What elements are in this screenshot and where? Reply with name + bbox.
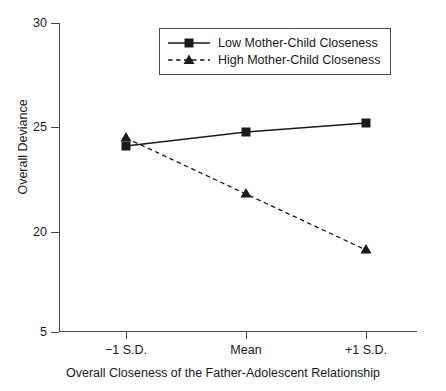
legend-key-solid-square-icon <box>167 36 211 50</box>
x-tick-label-mean: Mean <box>201 343 291 357</box>
y-axis-title: Overall Deviance <box>16 77 30 217</box>
y-tick-label-5: 5 <box>0 326 47 339</box>
y-tick-mark-30 <box>51 23 59 24</box>
x-axis-title: Overall Closeness of the Father-Adolesce… <box>0 366 446 380</box>
x-tick-label-minus1sd: −1 S.D. <box>81 343 171 357</box>
x-tick-mark-plus1sd <box>366 332 367 339</box>
legend: Low Mother-Child Closeness High Mother-C… <box>159 28 391 75</box>
legend-label-high: High Mother-Child Closeness <box>218 53 381 67</box>
chart-figure: 30 25 20 5 Overall Deviance −1 S.D. Mean… <box>0 0 446 391</box>
y-tick-label-30: 30 <box>0 17 47 30</box>
x-tick-mark-mean <box>246 332 247 339</box>
y-tick-mark-5 <box>51 332 59 333</box>
y-tick-label-20: 20 <box>0 226 47 239</box>
legend-label-low: Low Mother-Child Closeness <box>218 36 378 50</box>
y-tick-mark-20 <box>51 232 59 233</box>
legend-item-low: Low Mother-Child Closeness <box>167 34 381 51</box>
x-tick-mark-minus1sd <box>126 332 127 339</box>
legend-item-high: High Mother-Child Closeness <box>167 51 381 68</box>
legend-key-dashed-triangle-icon <box>167 53 211 67</box>
x-tick-label-plus1sd: +1 S.D. <box>321 343 411 357</box>
y-tick-mark-25 <box>51 127 59 128</box>
